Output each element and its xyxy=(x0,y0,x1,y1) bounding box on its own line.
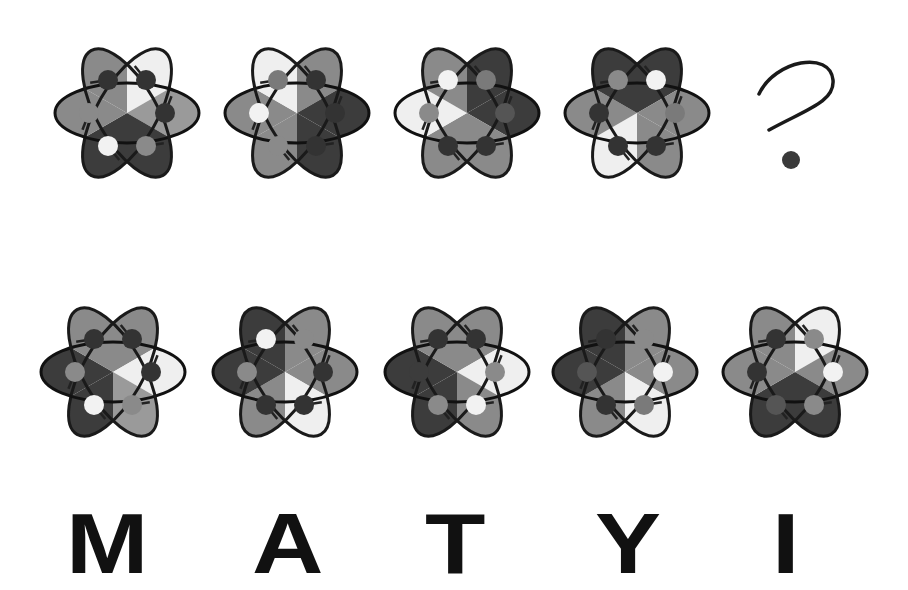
option-letter-T[interactable]: T xyxy=(425,500,485,586)
option-letter-I[interactable]: I xyxy=(772,500,799,586)
answer-option-I[interactable] xyxy=(710,287,880,457)
answer-option-Y[interactable] xyxy=(540,287,710,457)
option-letter-A[interactable]: A xyxy=(252,500,323,586)
sequence-figure-1 xyxy=(42,28,212,198)
answer-option-T[interactable] xyxy=(372,287,542,457)
answer-option-M[interactable] xyxy=(28,287,198,457)
sequence-figure-3 xyxy=(382,28,552,198)
sequence-figure-4 xyxy=(552,28,722,198)
option-letter-M[interactable]: M xyxy=(66,500,148,586)
option-letter-Y[interactable]: Y xyxy=(595,500,661,586)
question-mark-icon xyxy=(745,40,855,170)
sequence-figure-2 xyxy=(212,28,382,198)
answer-option-A[interactable] xyxy=(200,287,370,457)
